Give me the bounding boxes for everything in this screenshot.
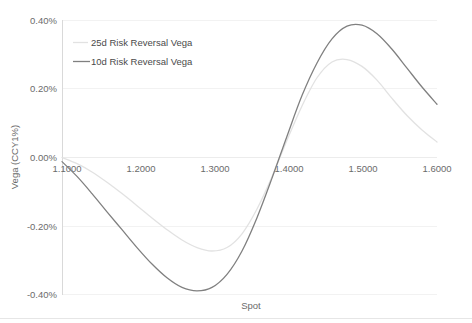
y-tick-label: 0.40%	[30, 15, 57, 26]
x-tick-labels: 1.1000 1.2000 1.3000 1.4000 1.5000 1.600…	[52, 163, 451, 174]
chart-legend: 25d Risk Reversal Vega 10d Risk Reversal…	[73, 37, 193, 67]
chart-canvas: 0.40% 0.20% 0.00% -0.20% -0.40% 1.1000 1…	[0, 0, 472, 323]
y-tick-label: 0.00%	[30, 152, 57, 163]
x-tick-label: 1.4000	[274, 163, 303, 174]
x-tick-label: 1.2000	[126, 163, 155, 174]
y-tick-label: -0.40%	[27, 289, 58, 300]
x-tick-label: 1.5000	[348, 163, 377, 174]
x-tick-label: 1.6000	[422, 163, 451, 174]
legend-label-10d: 10d Risk Reversal Vega	[91, 56, 193, 67]
series-line-25d	[62, 59, 437, 251]
x-tick-label: 1.1000	[52, 163, 81, 174]
legend-label-25d: 25d Risk Reversal Vega	[91, 37, 193, 48]
y-tick-label: -0.20%	[27, 221, 58, 232]
y-axis-title: Vega (CCY1%)	[9, 125, 20, 189]
x-axis-title: Spot	[241, 300, 261, 311]
x-tick-label: 1.3000	[200, 163, 229, 174]
risk-reversal-vega-chart: 0.40% 0.20% 0.00% -0.20% -0.40% 1.1000 1…	[0, 0, 472, 323]
y-tick-labels: 0.40% 0.20% 0.00% -0.20% -0.40%	[27, 15, 58, 300]
y-tick-label: 0.20%	[30, 83, 57, 94]
